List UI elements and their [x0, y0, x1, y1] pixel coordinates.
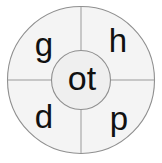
segment-letter-top-left: g	[35, 26, 53, 63]
word-wheel-diagram: g h d p ot	[0, 0, 162, 163]
segment-letter-top-right: h	[109, 22, 127, 59]
segment-letter-bottom-left: d	[35, 98, 53, 135]
segment-letter-bottom-right: p	[110, 100, 128, 137]
center-word-ending: ot	[68, 59, 97, 97]
word-wheel-container: g h d p ot	[0, 0, 162, 163]
